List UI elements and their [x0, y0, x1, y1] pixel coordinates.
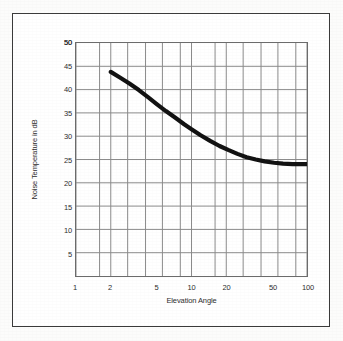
y-tick-label: 10 — [46, 226, 72, 235]
x-tick-label: 50 — [258, 283, 288, 292]
y-tick-label: 15 — [46, 203, 72, 212]
y-tick-label: 50 — [46, 38, 72, 47]
y-tick-label: 5 — [46, 250, 72, 259]
x-tick-label: 5 — [141, 283, 171, 292]
plot-area — [75, 42, 308, 277]
data-curve — [76, 43, 307, 276]
y-tick-label: 35 — [46, 109, 72, 118]
y-tick-label: 40 — [46, 85, 72, 94]
y-tick-label: 30 — [46, 132, 72, 141]
x-axis-title: Elevation Angle — [75, 296, 308, 305]
y-tick-label: 45 — [46, 62, 72, 71]
x-tick-label: 20 — [212, 283, 242, 292]
y-tick-label: 50 — [46, 38, 72, 47]
y-axis-title: Noise Temperature in dB — [30, 65, 39, 255]
x-tick-label: 100 — [293, 283, 323, 292]
y-tick-label: 25 — [46, 156, 72, 165]
x-tick-label: 2 — [95, 283, 125, 292]
noise-temperature-chart: 510152025303540455050 125102050100 Eleva… — [0, 0, 343, 341]
x-tick-label: 10 — [177, 283, 207, 292]
x-tick-label: 1 — [60, 283, 90, 292]
y-tick-label: 20 — [46, 179, 72, 188]
